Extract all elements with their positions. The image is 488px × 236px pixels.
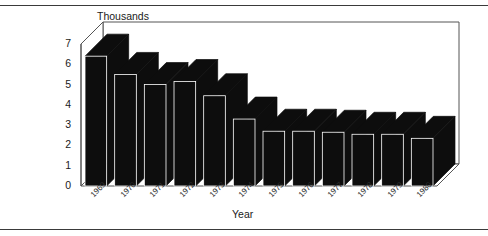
y-tick-0: 0 [57, 180, 71, 191]
figure-container: Thousands 01234567 196919701971197219731… [0, 0, 488, 236]
y-tick-4: 4 [57, 99, 71, 110]
y-tick-6: 6 [57, 58, 71, 69]
chart-geometry [81, 22, 459, 186]
bar-chart-plot [0, 0, 488, 236]
y-tick-2: 2 [57, 139, 71, 150]
chart-svg [0, 0, 488, 236]
x-axis-title: Year [232, 209, 253, 220]
y-tick-5: 5 [57, 79, 71, 90]
chart-title: Thousands [97, 11, 149, 22]
y-tick-7: 7 [57, 38, 71, 49]
y-tick-1: 1 [57, 160, 71, 171]
y-tick-3: 3 [57, 119, 71, 130]
